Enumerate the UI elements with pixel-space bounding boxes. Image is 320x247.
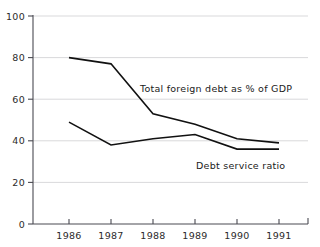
line-chart-figure: 100 80 60 40 20 0 1986 1987 1988 1989 19… — [0, 0, 320, 247]
y-tick-label-0: 0 — [19, 219, 25, 230]
x-tick-label-1989: 1989 — [182, 230, 207, 241]
x-tick-label-1990: 1990 — [224, 230, 249, 241]
annotation-total-foreign-debt: Total foreign debt as % of GDP — [139, 83, 292, 94]
x-tick-label-1988: 1988 — [140, 230, 165, 241]
chart-background — [0, 0, 320, 247]
y-tick-label-100: 100 — [6, 11, 25, 22]
y-tick-label-60: 60 — [12, 94, 25, 105]
y-tick-label-80: 80 — [12, 52, 25, 63]
annotation-debt-service-ratio: Debt service ratio — [196, 160, 285, 171]
x-tick-label-1991: 1991 — [266, 230, 291, 241]
x-tick-label-1986: 1986 — [56, 230, 81, 241]
chart-canvas: 100 80 60 40 20 0 1986 1987 1988 1989 19… — [0, 0, 320, 247]
y-tick-label-20: 20 — [12, 177, 25, 188]
y-tick-label-40: 40 — [12, 135, 25, 146]
x-tick-label-1987: 1987 — [98, 230, 123, 241]
